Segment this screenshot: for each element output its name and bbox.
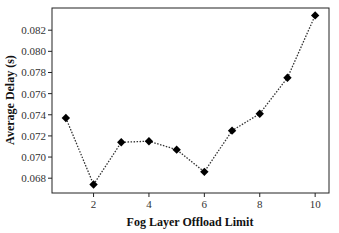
data-point-marker [89, 180, 97, 188]
x-tick-label: 8 [257, 198, 263, 210]
x-axis-title: Fog Layer Offload Limit [127, 215, 254, 229]
y-tick-label: 0.080 [21, 45, 46, 57]
y-tick-label: 0.078 [21, 66, 46, 78]
data-point-marker [311, 11, 319, 19]
series-markers [62, 11, 320, 189]
data-point-marker [283, 74, 291, 82]
data-point-marker [117, 138, 125, 146]
x-axis: 246810 [91, 193, 321, 210]
y-tick-label: 0.076 [21, 88, 46, 100]
y-axis-title: Average Delay (s) [3, 55, 17, 145]
x-tick-label: 2 [91, 198, 97, 210]
x-tick-label: 10 [310, 198, 322, 210]
y-tick-label: 0.070 [21, 151, 46, 163]
line-chart: 0.0680.0700.0720.0740.0760.0780.0800.082… [0, 0, 339, 233]
x-tick-label: 4 [146, 198, 152, 210]
y-tick-label: 0.068 [21, 172, 46, 184]
y-tick-label: 0.082 [21, 24, 46, 36]
series-line [66, 15, 315, 184]
data-point-marker [145, 137, 153, 145]
y-axis: 0.0680.0700.0720.0740.0760.0780.0800.082 [21, 24, 52, 184]
x-tick-label: 6 [202, 198, 208, 210]
plot-frame [52, 8, 329, 193]
y-tick-label: 0.074 [21, 109, 46, 121]
y-tick-label: 0.072 [21, 130, 46, 142]
data-point-marker [228, 126, 236, 134]
data-point-marker [62, 114, 70, 122]
